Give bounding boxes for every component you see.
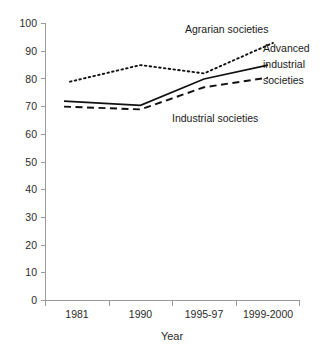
x-axis-title: Year (161, 330, 184, 342)
series-label-industrial-societies: Industrial societies (172, 112, 258, 124)
y-tick-label-40: 40 (25, 183, 37, 195)
y-tick-label-80: 80 (25, 73, 37, 85)
series-line-agrarian-societies (70, 43, 273, 82)
series-line-industrial-societies (64, 78, 268, 110)
series-line-advanced-industrial-societies (64, 65, 268, 105)
x-tick-label-1990: 1990 (129, 308, 153, 320)
y-tick-label-30: 30 (25, 211, 37, 223)
x-axis: 1981 1990 1995-97 1999-2000 Year (46, 301, 301, 343)
y-tick-label-60: 60 (25, 128, 37, 140)
series-label-advanced-industrial-societies-line1: Advanced (263, 42, 310, 54)
y-tick-label-10: 10 (25, 266, 37, 278)
x-tick-label-1995-97: 1995-97 (185, 308, 224, 320)
y-tick-label-0: 0 (31, 294, 37, 306)
x-tick-label-1999-2000: 1999-2000 (243, 308, 293, 320)
y-axis: 100 90 80 70 60 50 40 30 20 10 0 (19, 17, 45, 306)
series-label-advanced-industrial-societies-line2: industrial (263, 58, 305, 70)
y-tick-label-20: 20 (25, 239, 37, 251)
y-tick-label-100: 100 (19, 17, 37, 29)
y-tick-label-70: 70 (25, 100, 37, 112)
y-tick-label-50: 50 (25, 156, 37, 168)
line-chart: 100 90 80 70 60 50 40 30 20 10 0 1981 19… (0, 0, 324, 352)
series-label-agrarian-societies: Agrarian societies (185, 23, 268, 35)
x-tick-label-1981: 1981 (65, 308, 89, 320)
series-label-advanced-industrial-societies-line3: societies (263, 74, 304, 86)
chart-canvas: 100 90 80 70 60 50 40 30 20 10 0 1981 19… (0, 0, 324, 352)
y-tick-label-90: 90 (25, 45, 37, 57)
